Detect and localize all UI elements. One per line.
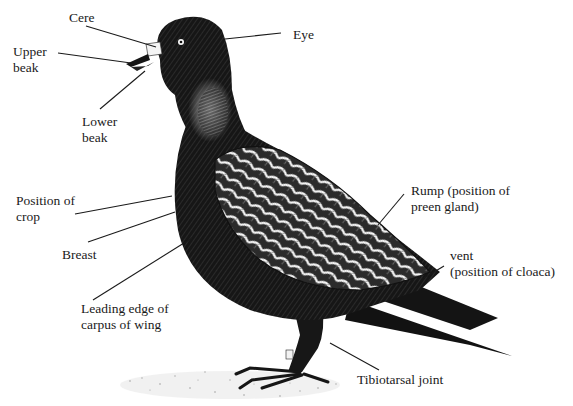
- label-lower-beak: Lower beak: [82, 114, 117, 146]
- leader-line-upper-beak: [58, 53, 131, 63]
- leader-line-leading-edge-carpus: [93, 238, 192, 300]
- upper-beak: [126, 54, 150, 67]
- leader-line-rump: [378, 194, 404, 225]
- leader-line-lower-beak: [100, 71, 145, 109]
- label-cere: Cere: [69, 10, 94, 26]
- leader-line-cere: [86, 26, 156, 47]
- label-tibiotarsal-joint: Tibiotarsal joint: [357, 372, 443, 388]
- leader-line-tibiotarsal-joint: [330, 343, 379, 370]
- label-rump: Rump (position of preen gland): [411, 183, 510, 215]
- leader-line-breast: [88, 212, 175, 242]
- label-upper-beak: Upper beak: [13, 44, 47, 76]
- label-eye: Eye: [293, 27, 314, 43]
- pigeon-anatomy-diagram: Cere Eye Upper beak Lower beak Position …: [0, 0, 573, 406]
- leader-line-eye: [225, 33, 281, 39]
- label-leading-edge-carpus: Leading edge of carpus of wing: [81, 301, 169, 333]
- label-breast: Breast: [62, 247, 97, 263]
- leg-band: [286, 350, 293, 359]
- leader-line-position-of-crop: [75, 196, 172, 214]
- cere: [146, 42, 162, 56]
- label-vent: vent (position of cloaca): [450, 248, 555, 280]
- label-position-of-crop: Position of crop: [16, 193, 75, 225]
